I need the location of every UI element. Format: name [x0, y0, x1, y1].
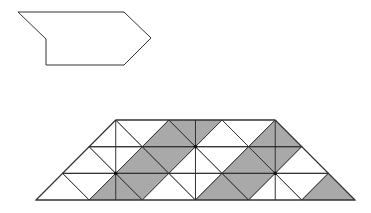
- trapezoid-triangle-tiling: [36, 120, 355, 200]
- arrow-pentagon-shape: [18, 12, 151, 65]
- vertex-dot: [114, 172, 118, 176]
- vertex-dot: [273, 172, 277, 176]
- vertex-dot: [194, 145, 198, 149]
- diagram-canvas: [0, 0, 371, 213]
- figure-svg: [0, 0, 371, 213]
